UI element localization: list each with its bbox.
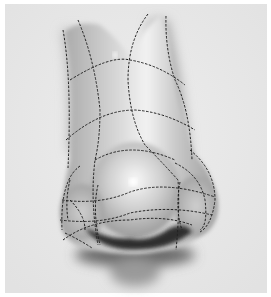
nose-illustration (0, 0, 271, 297)
illustration-frame (0, 0, 271, 297)
